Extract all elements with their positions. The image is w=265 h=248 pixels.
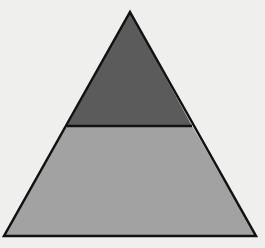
bottom-section [4, 126, 256, 236]
diagram-canvas [0, 0, 265, 248]
top-section [67, 12, 192, 126]
triangle-diagram [0, 0, 265, 248]
